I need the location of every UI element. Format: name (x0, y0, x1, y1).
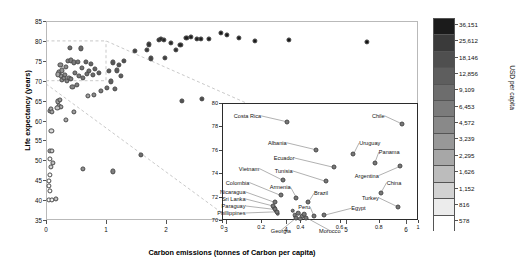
inset-point-label: Colombia (226, 180, 250, 186)
inset-data-point (294, 215, 299, 220)
inset-data-point (294, 195, 299, 200)
inset-data-point (396, 205, 401, 210)
colorbar-tick-mark (455, 188, 458, 189)
inset-point-label: China (387, 180, 402, 186)
colorbar-title: USD per capita (509, 48, 516, 128)
inset-point-label: Brazil (314, 190, 328, 196)
inset-data-point (280, 178, 285, 183)
colorbar-tick-label: 4,572 (459, 119, 474, 126)
inset-point-label: Peru (298, 204, 310, 210)
colorbar-tick-label: 816 (459, 200, 469, 207)
inset-point-label: Armenia (270, 184, 291, 190)
colorbar-tick-mark (455, 73, 458, 74)
inset-data-point (321, 213, 326, 218)
colorbar-tick-label: 9,109 (459, 86, 474, 93)
colorbar-tick-mark (455, 171, 458, 172)
inset-point-label: Chile (372, 113, 385, 119)
inset-data-point (378, 191, 383, 196)
inset-point-label: Tunisia (275, 168, 293, 174)
inset-point-label: Ecuador (274, 155, 295, 161)
colorbar-tick-mark (455, 24, 458, 25)
colorbar-tick-label: 25,612 (459, 37, 478, 44)
inset-data-point (323, 179, 328, 184)
inset-data-point (274, 209, 279, 214)
colorbar-tick-label: 6,453 (459, 102, 474, 109)
inset-point-label: Georgia (271, 228, 291, 234)
colorbar-tick-mark (455, 122, 458, 123)
inset-data-point (331, 165, 336, 170)
inset-point-label: Morocco (319, 228, 340, 234)
inset-data-point (312, 214, 317, 219)
inset-point-label: Costa Rica (234, 113, 261, 119)
colorbar-tick-mark (455, 155, 458, 156)
inset-data-point (290, 208, 295, 213)
inset-point-label: Uruguay (359, 140, 380, 146)
colorbar-tick-label: 12,856 (459, 69, 478, 76)
colorbar-ticks: 36,15125,61218,14612,8569,1096,4534,5723… (433, 18, 503, 238)
inset-data-point (284, 119, 289, 124)
colorbar-tick-mark (455, 57, 458, 58)
colorbar-tick-mark (455, 138, 458, 139)
inset-point-label: Egypt (351, 205, 365, 211)
inset-point-label: Albania (268, 140, 287, 146)
colorbar-tick-mark (455, 106, 458, 107)
inset-point-label: Vietnam (239, 166, 259, 172)
inset-point-label: Turkey (362, 195, 379, 201)
colorbar-tick-mark (455, 89, 458, 90)
colorbar-tick-label: 1,152 (459, 184, 474, 191)
inset-data-point (398, 164, 403, 169)
inset-point-label: Panama (379, 149, 400, 155)
inset-point-label: Phillippines (217, 210, 245, 216)
inset-point-label: Paraguay (222, 203, 246, 209)
colorbar-tick-label: 578 (459, 217, 469, 224)
colorbar-tick-label: 2,295 (459, 151, 474, 158)
inset-data-point (400, 122, 405, 127)
colorbar-tick-label: 1,626 (459, 168, 474, 175)
inset-point-label: Sri Lanka (222, 196, 246, 202)
inset-data-point (304, 215, 309, 220)
colorbar-tick-mark (455, 40, 458, 41)
inset-data-point (278, 193, 283, 198)
inset-data-point (314, 147, 319, 152)
colorbar-tick-mark (455, 220, 458, 221)
inset-point-label: Nicaragua (220, 189, 246, 195)
colorbar-tick-label: 36,151 (459, 20, 478, 27)
colorbar-tick-label: 3,239 (459, 135, 474, 142)
inset-data-point (372, 160, 377, 165)
colorbar-tick-mark (455, 204, 458, 205)
colorbar-tick-label: 18,146 (459, 53, 478, 60)
inset-data-point (351, 152, 356, 157)
inset-point-label: Argentina (355, 173, 379, 179)
